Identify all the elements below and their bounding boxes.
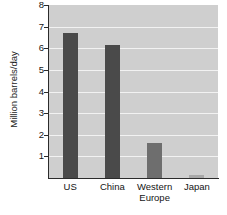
y-axis-title: Million barrels/day [0,0,26,178]
y-axis-tick-label: 5 [26,65,44,75]
x-axis-tick-labels: USChinaWestern EuropeJapan [49,181,218,215]
plot-area [49,5,218,178]
x-axis-tick-label: US [64,181,77,192]
bar [63,33,78,178]
bar [189,175,204,178]
bar [105,45,120,178]
x-axis-tick-label: Western Europe [137,181,172,203]
y-axis-tick-label: 2 [26,130,44,140]
y-axis-tick-label: 1 [26,152,44,162]
y-axis-tick-labels: 12345678 [26,0,44,182]
y-axis-tick-label: 3 [26,108,44,118]
y-axis-tick-label: 8 [26,0,44,10]
bar [147,143,162,178]
y-axis-tick-label: 4 [26,87,44,97]
x-axis-tick-label: China [100,181,125,192]
x-axis-line [48,178,219,179]
y-axis-title-text: Million barrels/day [8,51,19,128]
y-axis-tick-label: 7 [26,22,44,32]
x-axis-tick-label: Japan [184,181,210,192]
gridline [49,27,218,28]
y-axis-tick-label: 6 [26,44,44,54]
bar-chart: Million barrels/day 12345678 USChinaWest… [0,0,227,215]
